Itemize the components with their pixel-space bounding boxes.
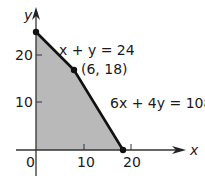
x-tick-label-10: 10	[77, 154, 95, 170]
y-axis-label: y	[23, 7, 33, 23]
vertex-point	[33, 29, 39, 35]
constraint-label-1: x + y = 24	[59, 42, 135, 58]
constraint-label-2: 6x + 4y = 108	[110, 95, 205, 111]
vertex-label: (6, 18)	[81, 61, 128, 77]
vertex-point	[71, 67, 77, 73]
x-axis-label: x	[189, 142, 199, 158]
y-tick-label-10: 10	[15, 94, 33, 110]
feasible-region-diagram: y x 0 20 10 10 20 x + y = 24 (6, 18) 6x …	[0, 0, 205, 186]
x-tick-label-20: 20	[123, 154, 141, 170]
y-tick-label-20: 20	[15, 47, 33, 63]
vertex-point	[120, 147, 126, 153]
origin-label: 0	[26, 154, 35, 170]
